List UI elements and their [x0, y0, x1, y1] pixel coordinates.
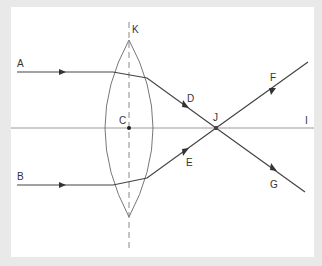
label-j: J — [213, 112, 218, 123]
label-k: K — [132, 24, 139, 35]
label-d: D — [187, 93, 194, 104]
optical-center-point — [127, 126, 131, 130]
arrow-icon — [182, 148, 189, 156]
label-f: F — [270, 72, 276, 83]
ray-b — [17, 62, 308, 185]
arrow-icon — [269, 88, 276, 95]
arrow-icon — [270, 163, 277, 171]
label-g: G — [270, 179, 278, 190]
arrow-icon — [59, 182, 66, 188]
ray-a — [17, 72, 305, 192]
label-b: B — [17, 171, 24, 182]
label-a: A — [17, 58, 24, 69]
label-i: I — [305, 115, 308, 126]
lens-diagram: A B C D E F G I J K — [0, 0, 322, 266]
label-e: E — [186, 157, 193, 168]
arrow-icon — [59, 69, 66, 75]
label-c: C — [119, 115, 126, 126]
